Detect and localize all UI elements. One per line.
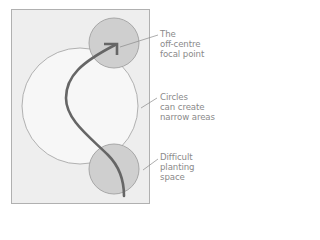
label-line: The <box>160 29 204 39</box>
label-line: narrow areas <box>160 112 215 122</box>
label-line: Circles <box>160 92 215 102</box>
label-difficult-planting: Difficult planting space <box>160 152 194 182</box>
label-line: space <box>160 172 194 182</box>
label-line: focal point <box>160 49 204 59</box>
label-line: planting <box>160 162 194 172</box>
label-line: Difficult <box>160 152 194 162</box>
label-narrow-areas: Circles can create narrow areas <box>160 92 215 122</box>
label-line: off-centre <box>160 39 204 49</box>
bottom-planting-circle <box>89 144 139 194</box>
label-focal-point: The off-centre focal point <box>160 29 204 59</box>
label-line: can create <box>160 102 215 112</box>
